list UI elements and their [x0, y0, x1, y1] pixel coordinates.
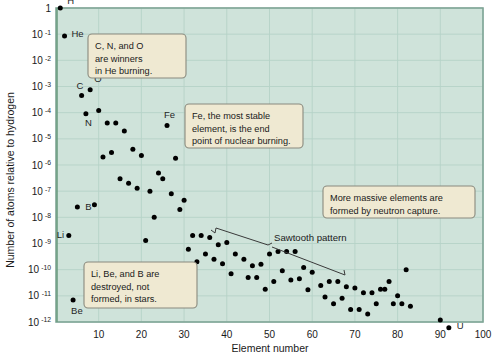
callout-line: Fe, the most stable: [192, 111, 270, 121]
data-point: [258, 262, 263, 267]
data-point: [357, 307, 362, 312]
data-point: [365, 312, 370, 317]
y-tick-exponent: -3: [45, 81, 51, 88]
data-point: [267, 251, 272, 256]
y-tick-label: 10: [32, 160, 44, 171]
y-tick-exponent: -6: [45, 159, 51, 166]
abundance-chart-figure: 1-110-210-310-410-510-610-710-810-910-10…: [0, 0, 497, 360]
callout-line: C, N, and O: [95, 41, 144, 51]
element-label-b: B: [85, 201, 91, 212]
data-point: [399, 301, 404, 306]
data-point: [92, 202, 97, 207]
data-point: [122, 128, 127, 133]
element-abundance-chart: 1-110-210-310-410-510-610-710-810-910-10…: [0, 0, 497, 360]
data-point: [105, 121, 110, 126]
callout-line: More massive elements are: [330, 193, 443, 203]
data-point: [100, 155, 105, 160]
data-point: [224, 240, 229, 245]
callout-line: formed by neutron capture.: [330, 206, 440, 216]
data-point: [233, 251, 238, 256]
element-label-he: He: [72, 28, 84, 39]
data-point: [395, 293, 400, 298]
y-tick-exponent: -11: [42, 290, 52, 297]
data-point: [340, 296, 345, 301]
data-point: [186, 247, 191, 252]
data-point: [327, 279, 332, 284]
x-tick-label: 10: [93, 329, 105, 340]
data-point: [118, 176, 123, 181]
y-tick-label: 10: [32, 29, 44, 40]
y-axis-title: Number of atoms relative to hydrogen: [4, 92, 16, 268]
data-point: [301, 265, 306, 270]
data-point: [83, 111, 88, 116]
x-tick-label: 100: [475, 329, 492, 340]
element-label-fe: Fe: [164, 109, 175, 120]
element-label-n: N: [85, 117, 92, 128]
element-label-h: H: [67, 0, 74, 6]
data-point: [271, 279, 276, 284]
data-point: [438, 317, 443, 322]
data-point: [173, 156, 178, 161]
x-tick-label: 80: [392, 329, 404, 340]
data-point: [66, 233, 71, 238]
y-tick-label: 10: [28, 290, 40, 301]
element-label-be: Be: [71, 305, 83, 316]
data-point: [310, 270, 315, 275]
y-tick-exponent: -7: [45, 186, 51, 193]
callout-he-burning: C, N, and Oare winnersin He burning.: [88, 34, 186, 78]
y-tick-label: 10: [32, 55, 44, 66]
y-tick-label: 10: [32, 133, 44, 144]
x-axis-title: Element number: [231, 342, 309, 354]
data-point: [344, 284, 349, 289]
x-tick-label: 50: [264, 329, 276, 340]
data-point: [211, 257, 216, 262]
data-point: [109, 150, 114, 155]
data-point: [190, 233, 195, 238]
data-point: [361, 290, 366, 295]
callout-line: Li, Be, and B are: [91, 269, 159, 279]
element-label-c: C: [77, 80, 84, 91]
y-tick-label: 10: [32, 107, 44, 118]
callout-fe-stable: Fe, the most stableelement, is the endpo…: [185, 104, 303, 148]
y-tick-exponent: -2: [45, 55, 51, 62]
data-point: [203, 251, 208, 256]
x-tick-label: 40: [221, 329, 233, 340]
y-tick-exponent: -4: [45, 107, 51, 114]
data-point: [263, 287, 268, 292]
data-point: [382, 287, 387, 292]
data-point: [446, 325, 451, 330]
data-point: [130, 147, 135, 152]
data-point: [216, 242, 221, 247]
callout-line: element, is the end: [192, 124, 270, 134]
data-point: [391, 301, 396, 306]
y-tick-exponent: -1: [45, 29, 51, 36]
y-tick-exponent: -10: [41, 264, 51, 271]
data-point: [246, 275, 251, 280]
y-tick-exponent: -8: [45, 212, 51, 219]
callout-line: are winners: [95, 54, 143, 64]
data-point: [348, 307, 353, 312]
data-point: [156, 170, 161, 175]
callout-light-destroyed: Li, Be, and B aredestroyed, notformed, i…: [84, 262, 197, 308]
x-tick-label: 30: [179, 329, 191, 340]
x-tick-label: 70: [349, 329, 361, 340]
data-point: [323, 295, 328, 300]
callout-line: in He burning.: [95, 66, 152, 76]
y-tick-exponent: -5: [45, 133, 51, 140]
data-point: [280, 268, 285, 273]
data-point: [139, 153, 144, 158]
callout-line: point of nuclear burning.: [192, 136, 291, 146]
data-point: [207, 235, 212, 240]
data-point: [79, 93, 84, 98]
y-tick-label: 10: [32, 238, 44, 249]
y-tick-label: 10: [32, 186, 44, 197]
data-point: [75, 204, 80, 209]
data-point: [160, 176, 165, 181]
x-tick-label: 20: [136, 329, 148, 340]
y-tick-label: 10: [32, 212, 44, 223]
data-point: [152, 215, 157, 220]
callout-neutron-capture: More massive elements areformed by neutr…: [323, 186, 475, 218]
element-label-li: Li: [57, 229, 64, 240]
data-point: [135, 186, 140, 191]
y-tick-label: 10: [32, 81, 44, 92]
